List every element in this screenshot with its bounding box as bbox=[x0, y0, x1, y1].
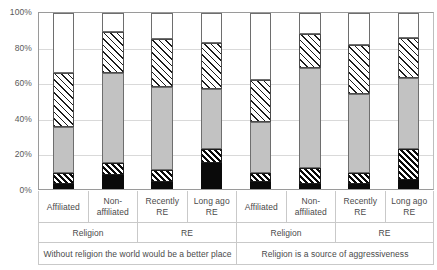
category-row: AffiliatedNon-affiliatedRecentlyRELong a… bbox=[38, 191, 434, 223]
category-label-4: Long agoRE bbox=[187, 191, 237, 223]
category-label-3: RecentlyRE bbox=[137, 191, 187, 223]
category-label-text: RecentlyRE bbox=[337, 196, 384, 217]
group-label-1: Religion bbox=[38, 223, 137, 243]
y-tick-label: 40% bbox=[15, 114, 32, 124]
stacked-bar-chart: 0%20%40%60%80%100% AffiliatedNon-affilia… bbox=[0, 0, 437, 270]
category-label-text: Long agoRE bbox=[387, 196, 433, 217]
bars-layer bbox=[39, 13, 433, 189]
bar-stack bbox=[151, 13, 173, 189]
bar-3 bbox=[151, 13, 173, 189]
bar-segment-4 bbox=[250, 80, 272, 122]
group-row: ReligionREReligionRE bbox=[38, 223, 434, 243]
bar-stack bbox=[398, 13, 420, 189]
bar-segment-2 bbox=[398, 149, 420, 181]
question-label-2: Religion is a source of aggressiveness bbox=[236, 243, 434, 265]
group-label-4: RE bbox=[335, 223, 434, 243]
bar-segment-1 bbox=[201, 163, 223, 189]
bar-stack bbox=[102, 13, 124, 189]
bar-segment-4 bbox=[201, 43, 223, 89]
question-label-1: Without religion the world would be a be… bbox=[38, 243, 236, 265]
bar-segment-1 bbox=[398, 180, 420, 189]
bar-segment-2 bbox=[348, 173, 370, 184]
y-axis: 0%20%40%60%80%100% bbox=[0, 0, 36, 196]
bar-segment-4 bbox=[151, 39, 173, 87]
bar-7 bbox=[348, 13, 370, 189]
bar-segment-3 bbox=[151, 87, 173, 170]
bar-segment-2 bbox=[53, 173, 75, 184]
bar-4 bbox=[201, 13, 223, 189]
bar-8 bbox=[398, 13, 420, 189]
y-tick-label: 60% bbox=[15, 78, 32, 88]
category-label-text: Affiliated bbox=[40, 202, 87, 213]
bar-segment-3 bbox=[53, 127, 75, 173]
bar-stack bbox=[299, 13, 321, 189]
bar-segment-1 bbox=[53, 184, 75, 189]
category-label-1: Affiliated bbox=[38, 191, 88, 223]
category-label-5: Affiliated bbox=[236, 191, 286, 223]
bar-segment-5 bbox=[201, 13, 223, 43]
bar-segment-3 bbox=[398, 78, 420, 148]
bar-segment-4 bbox=[299, 34, 321, 67]
category-label-2: Non-affiliated bbox=[88, 191, 138, 223]
bar-segment-3 bbox=[250, 122, 272, 173]
bar-stack bbox=[348, 13, 370, 189]
bar-segment-2 bbox=[102, 163, 124, 175]
bar-segment-5 bbox=[151, 13, 173, 39]
bar-segment-4 bbox=[348, 45, 370, 94]
bar-segment-2 bbox=[299, 168, 321, 184]
plot-wrapper: 0%20%40%60%80%100% bbox=[0, 0, 437, 196]
bar-segment-5 bbox=[102, 13, 124, 32]
bar-segment-3 bbox=[299, 68, 321, 168]
category-label-text: Long agoRE bbox=[189, 196, 236, 217]
bar-stack bbox=[201, 13, 223, 189]
bar-segment-2 bbox=[250, 173, 272, 182]
y-tick-label: 20% bbox=[15, 149, 32, 159]
category-label-text: Affiliated bbox=[238, 202, 285, 213]
bar-segment-1 bbox=[348, 184, 370, 189]
bar-stack bbox=[53, 13, 75, 189]
bar-segment-5 bbox=[299, 13, 321, 34]
category-label-text: Non-affiliated bbox=[288, 196, 335, 217]
bar-segment-2 bbox=[151, 170, 173, 182]
group-label-3: Religion bbox=[236, 223, 335, 243]
category-label-8: Long agoRE bbox=[385, 191, 435, 223]
bar-segment-3 bbox=[102, 73, 124, 163]
bar-stack bbox=[250, 13, 272, 189]
bar-segment-3 bbox=[348, 94, 370, 173]
bar-5 bbox=[250, 13, 272, 189]
bar-segment-5 bbox=[348, 13, 370, 45]
bar-segment-2 bbox=[201, 149, 223, 163]
plot-area bbox=[38, 12, 434, 190]
bar-segment-5 bbox=[250, 13, 272, 80]
bar-1 bbox=[53, 13, 75, 189]
category-axis-tables: AffiliatedNon-affiliatedRecentlyRELong a… bbox=[38, 191, 434, 267]
bar-segment-1 bbox=[299, 184, 321, 189]
category-label-6: Non-affiliated bbox=[286, 191, 336, 223]
bar-segment-3 bbox=[201, 89, 223, 149]
bar-segment-4 bbox=[398, 38, 420, 78]
category-label-text: Non-affiliated bbox=[90, 196, 137, 217]
y-tick-label: 100% bbox=[10, 7, 32, 17]
bar-segment-1 bbox=[102, 175, 124, 189]
bar-segment-1 bbox=[151, 182, 173, 189]
category-label-text: RecentlyRE bbox=[139, 196, 186, 217]
y-tick-label: 0% bbox=[20, 185, 33, 195]
bar-segment-1 bbox=[250, 182, 272, 189]
bar-segment-5 bbox=[398, 13, 420, 38]
bar-segment-4 bbox=[102, 32, 124, 72]
question-row: Without religion the world would be a be… bbox=[38, 243, 434, 265]
bar-segment-5 bbox=[53, 13, 75, 73]
bar-segment-4 bbox=[53, 73, 75, 128]
bar-6 bbox=[299, 13, 321, 189]
y-tick-label: 80% bbox=[15, 43, 32, 53]
group-label-2: RE bbox=[137, 223, 236, 243]
bar-2 bbox=[102, 13, 124, 189]
category-label-7: RecentlyRE bbox=[335, 191, 385, 223]
